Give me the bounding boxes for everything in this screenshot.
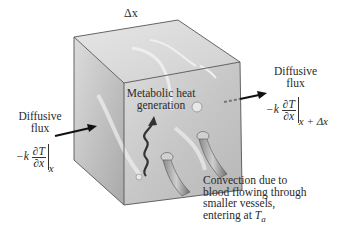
delta-x-label: Δx (124, 7, 138, 19)
left-flux-num: ∂T (32, 146, 46, 158)
right-flux-label: Diffusive flux (268, 65, 323, 89)
metabolic-heat-label: Metabolic heat generation (121, 87, 201, 111)
vessel-opening (136, 174, 142, 180)
left-flux-coef: −k (16, 150, 29, 162)
right-flux-equation: −k ∂T ∂x x + Δx (266, 97, 328, 127)
left-flux-eval: x (49, 162, 54, 174)
right-flux-derivative: ∂T ∂x (282, 99, 296, 122)
right-flux-den: ∂x (282, 111, 296, 122)
left-flux-equation: −k ∂T ∂x x (16, 144, 54, 174)
left-flux-line1: Diffusive (14, 110, 66, 122)
left-flux-line2: flux (14, 122, 66, 134)
temperature-subscript: a (261, 214, 266, 224)
right-flux-num: ∂T (282, 99, 296, 111)
convection-line1: Convection due to (203, 175, 307, 187)
right-flux-arrow (240, 95, 259, 99)
right-flux-coef: −k (266, 103, 279, 115)
right-flux-line2: flux (268, 77, 323, 89)
convection-line4-text: entering at (203, 209, 255, 221)
left-flux-label: Diffusive flux (14, 110, 66, 134)
convection-label: Convection due to blood flowing through … (203, 175, 307, 225)
metabolic-heat-line2: generation (121, 99, 201, 111)
left-flux-den: ∂x (32, 158, 46, 169)
left-flux-derivative: ∂T ∂x (32, 146, 46, 169)
metabolic-heat-line1: Metabolic heat (121, 87, 201, 99)
right-flux-line1: Diffusive (268, 65, 323, 77)
convection-line4: entering at Ta (203, 210, 307, 226)
right-flux-eval: x + Δx (299, 115, 328, 127)
